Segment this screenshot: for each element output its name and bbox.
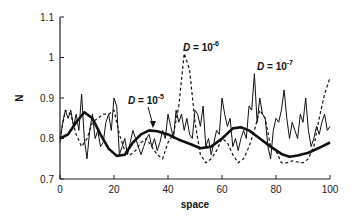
x-tick-label: 20: [108, 184, 120, 195]
annotations: D = 10-5D = 10-6D = 10-7: [128, 40, 293, 106]
series-line-1: [60, 112, 330, 157]
ticks: 0204060801000.70.80.911.1: [40, 12, 339, 196]
x-axis-title: space: [181, 199, 210, 210]
line-chart: 0204060801000.70.80.911.1 space N D = 10…: [0, 0, 352, 219]
x-tick-label: 40: [162, 184, 174, 195]
y-tick-label: 0.9: [40, 93, 54, 104]
series-layer: [60, 54, 330, 163]
annotation-label: D = 10-6: [183, 40, 219, 53]
x-tick-label: 80: [270, 184, 282, 195]
x-tick-label: 100: [322, 184, 339, 195]
annotation-arrow: [148, 107, 156, 128]
y-tick-label: 0.8: [40, 133, 54, 144]
y-tick-label: 0.7: [40, 174, 54, 185]
annotation-label: D = 10-7: [257, 59, 293, 72]
x-tick-label: 60: [216, 184, 228, 195]
y-tick-label: 1.1: [40, 12, 54, 23]
x-tick-label: 0: [57, 184, 63, 195]
annotation-label: D = 10-5: [128, 93, 164, 106]
y-axis-title: N: [14, 94, 25, 101]
y-tick-label: 1: [48, 52, 54, 63]
